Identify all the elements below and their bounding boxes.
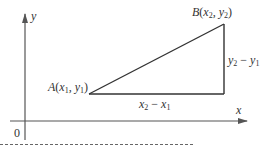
point-b-label: B(x2, y2) xyxy=(192,5,232,20)
vertical-difference-label: y2 − y1 xyxy=(227,53,259,68)
coordinate-diagram: y x 0 B(x2, y2) A(x1, y1) y2 − y1 x2 − x… xyxy=(0,0,265,146)
hypotenuse-segment-ab xyxy=(89,24,224,94)
horizontal-difference-label: x2 − x1 xyxy=(138,97,170,112)
y-axis-label: y xyxy=(30,9,37,23)
origin-label: 0 xyxy=(14,126,20,140)
x-axis-label: x xyxy=(235,103,242,117)
point-a-label: A(x1, y1) xyxy=(47,80,88,95)
